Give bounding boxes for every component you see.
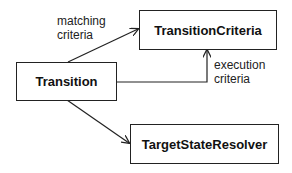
edge-label-line: execution — [214, 58, 265, 72]
node-transition-criteria-label: TransitionCriteria — [154, 23, 262, 38]
edge-label-matching-criteria: matching criteria — [57, 14, 106, 42]
edge-label-line: criteria — [214, 72, 265, 86]
node-target-state-resolver-label: TargetStateResolver — [142, 137, 267, 152]
node-transition-label: Transition — [35, 74, 97, 89]
edge-label-line: criteria — [57, 28, 106, 42]
node-transition-criteria: TransitionCriteria — [139, 10, 277, 50]
edge-label-line: matching — [57, 14, 106, 28]
edge-execution-criteria-arrow — [116, 50, 207, 82]
edge-target-state-resolver-arrow — [67, 100, 129, 143]
node-target-state-resolver: TargetStateResolver — [130, 124, 279, 164]
edge-label-execution-criteria: execution criteria — [214, 58, 265, 86]
node-transition: Transition — [16, 62, 117, 101]
